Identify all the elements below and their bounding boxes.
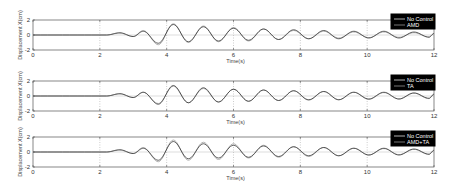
y-tick-label: -2 (25, 108, 31, 114)
y-tick-label: 2 (27, 78, 31, 84)
x-tick-label: 10 (364, 52, 371, 58)
x-axis-label: Time(s) (226, 119, 245, 125)
legend-entry: AMD (407, 22, 419, 28)
x-tick-label: 8 (299, 52, 303, 58)
legend: No ControlAMD (391, 14, 435, 29)
x-tick-label: 4 (165, 52, 169, 58)
panel-1: 02468101220-2Time(s)Displacement X(cm)No… (17, 10, 438, 63)
y-tick-label: 2 (27, 134, 31, 140)
x-axis-label: Time(s) (226, 175, 245, 181)
y-axis-label: Displacement X(cm) (17, 127, 23, 177)
panel-3: 02468101220-2Time(s)Displacement X(cm)No… (17, 127, 438, 180)
legend-entry: AMD+TA (407, 139, 429, 145)
y-tick-label: -2 (25, 47, 31, 53)
x-tick-label: 12 (431, 52, 438, 58)
x-tick-label: 2 (98, 169, 102, 175)
x-tick-label: 2 (98, 52, 102, 58)
x-tick-label: 4 (165, 113, 169, 119)
x-tick-label: 0 (31, 113, 35, 119)
x-tick-label: 0 (31, 169, 35, 175)
y-tick-label: 0 (27, 149, 31, 155)
y-tick-label: 2 (27, 17, 31, 23)
x-tick-label: 10 (364, 169, 371, 175)
x-tick-label: 8 (299, 113, 303, 119)
legend: No ControlTA (391, 75, 435, 90)
y-axis-label: Displacement X(cm) (17, 10, 23, 60)
chart-canvas: 02468101220-2Time(s)Displacement X(cm)No… (0, 0, 458, 192)
y-tick-label: 0 (27, 32, 31, 38)
x-tick-label: 4 (165, 169, 169, 175)
legend: No ControlAMD+TA (391, 131, 435, 146)
legend-entry: TA (407, 83, 414, 89)
x-tick-label: 10 (364, 113, 371, 119)
x-tick-label: 12 (431, 113, 438, 119)
x-axis-label: Time(s) (226, 58, 245, 64)
series-amd (33, 24, 434, 45)
y-tick-label: -2 (25, 164, 31, 170)
panel-2: 02468101220-2Time(s)Displacement X(cm)No… (17, 71, 438, 124)
series-amd-ta (33, 140, 434, 162)
y-tick-label: 0 (27, 93, 31, 99)
figure: 02468101220-2Time(s)Displacement X(cm)No… (0, 0, 458, 192)
y-axis-label: Displacement X(cm) (17, 71, 23, 121)
x-tick-label: 12 (431, 169, 438, 175)
x-tick-label: 2 (98, 113, 102, 119)
x-tick-label: 8 (299, 169, 303, 175)
x-tick-label: 0 (31, 52, 35, 58)
series-ta (33, 86, 434, 103)
